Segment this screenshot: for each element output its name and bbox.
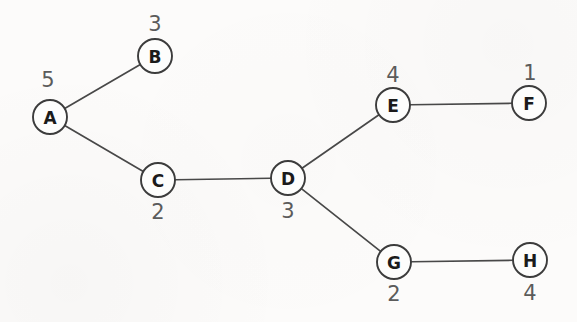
graph-svg: ABCDEFGH 53234124	[0, 0, 577, 322]
graph-edge-a-c	[65, 126, 143, 171]
node-weight-f: 1	[523, 61, 536, 85]
node-weight-a: 5	[41, 68, 54, 92]
nodes-layer: ABCDEFGH	[33, 39, 547, 279]
graph-node-g[interactable]: G	[377, 245, 411, 279]
graph-node-h[interactable]: H	[513, 243, 547, 277]
node-label-f: F	[523, 94, 535, 114]
graph-node-f[interactable]: F	[512, 86, 546, 120]
node-weight-e: 4	[386, 63, 399, 87]
graph-edge-c-d	[176, 178, 271, 179]
node-weight-g: 2	[387, 282, 400, 306]
graph-node-d[interactable]: D	[271, 161, 305, 195]
node-label-b: B	[149, 47, 162, 67]
graph-edge-d-e	[302, 115, 378, 168]
node-weight-c: 2	[151, 200, 164, 224]
graph-edge-g-h	[412, 260, 513, 261]
node-weight-h: 4	[523, 281, 536, 305]
graph-node-c[interactable]: C	[141, 163, 175, 197]
graph-node-a[interactable]: A	[33, 100, 67, 134]
graph-edge-d-g	[302, 189, 381, 251]
weights-layer: 53234124	[41, 12, 536, 306]
node-label-g: G	[387, 253, 401, 273]
node-weight-b: 3	[148, 12, 161, 36]
graph-diagram-canvas: ABCDEFGH 53234124	[0, 0, 577, 322]
node-label-h: H	[523, 251, 537, 271]
node-label-c: C	[152, 171, 164, 191]
graph-edge-e-f	[411, 103, 512, 104]
node-label-e: E	[387, 96, 399, 116]
node-label-d: D	[281, 169, 295, 189]
graph-edge-a-b	[65, 65, 140, 108]
node-weight-d: 3	[281, 199, 294, 223]
graph-node-b[interactable]: B	[138, 39, 172, 73]
node-label-a: A	[43, 108, 57, 128]
graph-node-e[interactable]: E	[376, 88, 410, 122]
